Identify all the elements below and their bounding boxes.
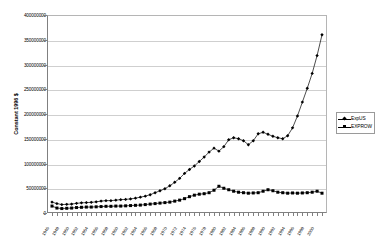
data-point-marker <box>144 194 147 197</box>
legend-item-exprow[interactable]: EXPROW <box>338 123 372 131</box>
data-point-marker <box>153 191 156 194</box>
data-point-marker <box>232 190 235 193</box>
data-point-marker <box>94 200 97 203</box>
x-axis-tick <box>204 213 205 216</box>
data-point-marker <box>188 195 191 198</box>
data-point-marker <box>158 189 161 192</box>
legend-marker-diamond-icon <box>338 115 351 123</box>
x-axis-tick-label: 1970 <box>159 226 168 236</box>
x-axis-tick-label: 1980 <box>208 226 217 236</box>
x-axis-tick-label: 1962 <box>120 226 129 236</box>
x-axis-tick <box>52 213 53 216</box>
data-point-marker <box>222 187 225 190</box>
data-point-marker <box>100 205 103 208</box>
data-point-marker <box>55 202 58 205</box>
data-point-marker <box>217 185 220 188</box>
x-axis-tick <box>297 213 298 216</box>
data-point-marker <box>119 205 122 208</box>
data-point-marker <box>134 204 137 207</box>
x-axis-tick <box>199 213 200 216</box>
data-point-marker <box>213 189 216 192</box>
x-axis-tick <box>145 213 146 216</box>
data-point-marker <box>129 197 132 200</box>
data-point-marker <box>237 137 240 140</box>
x-axis-tick-label: 1976 <box>188 226 197 236</box>
x-axis-tick <box>248 213 249 216</box>
legend-marker-square-icon <box>338 123 351 131</box>
data-point-marker <box>75 202 78 205</box>
data-point-marker <box>208 191 211 194</box>
data-point-marker <box>276 191 279 194</box>
data-point-marker <box>316 190 319 193</box>
x-axis-tick <box>170 213 171 216</box>
x-axis-tick <box>263 213 264 216</box>
x-axis-tick-label: 1948 <box>51 226 60 236</box>
data-point-marker <box>134 196 137 199</box>
data-point-marker <box>60 207 63 210</box>
data-point-marker <box>306 191 309 194</box>
data-point-marker <box>296 192 299 195</box>
data-point-marker <box>286 192 289 195</box>
series-line-expus <box>52 35 322 205</box>
x-axis-tick-label: 1990 <box>257 226 266 236</box>
data-point-marker <box>51 205 54 208</box>
data-point-marker <box>266 133 269 136</box>
data-point-marker <box>320 33 323 36</box>
data-point-marker <box>90 201 93 204</box>
data-point-marker <box>281 191 284 194</box>
data-point-marker <box>267 188 270 191</box>
x-axis-tick <box>278 213 279 216</box>
x-axis-tick-label: 1986 <box>237 226 246 236</box>
data-point-marker <box>237 191 240 194</box>
data-point-marker <box>139 195 142 198</box>
data-point-marker <box>65 203 68 206</box>
x-axis-tick <box>77 213 78 216</box>
legend-item-expus[interactable]: ExpUS <box>338 115 372 123</box>
x-axis-tick <box>86 213 87 216</box>
data-point-marker <box>65 207 68 210</box>
x-axis-tick <box>312 213 313 216</box>
x-axis-tick <box>72 213 73 216</box>
x-axis-tick-label: 1956 <box>90 226 99 236</box>
x-axis-tick <box>288 213 289 216</box>
x-axis-tick-label: 1954 <box>80 226 89 236</box>
data-point-marker <box>306 87 309 90</box>
x-axis-tick <box>239 213 240 216</box>
x-axis-tick-label: 1968 <box>149 226 158 236</box>
data-point-marker <box>80 206 83 209</box>
x-axis-tick <box>150 213 151 216</box>
x-axis-tick <box>322 213 323 216</box>
data-point-marker <box>105 205 108 208</box>
x-axis-tick <box>283 213 284 216</box>
x-axis-tick <box>175 213 176 216</box>
data-point-marker <box>55 207 58 210</box>
x-axis-tick <box>67 213 68 216</box>
x-axis-tick <box>57 213 58 216</box>
data-point-marker <box>149 203 152 206</box>
data-point-marker <box>114 198 117 201</box>
data-point-marker <box>291 191 294 194</box>
x-axis-tick <box>155 213 156 216</box>
data-point-marker <box>315 54 318 57</box>
data-point-marker <box>99 199 102 202</box>
x-axis-tick-label: 1988 <box>247 226 256 236</box>
data-point-marker <box>286 134 289 137</box>
y-axis-title: Constant 1996 $ <box>13 54 19 174</box>
data-point-marker <box>139 204 142 207</box>
x-axis-tick <box>293 213 294 216</box>
data-point-marker <box>168 201 171 204</box>
x-axis-tick-label: 1974 <box>178 226 187 236</box>
data-point-marker <box>271 135 274 138</box>
data-point-marker <box>60 203 63 206</box>
data-point-marker <box>70 202 73 205</box>
x-axis-tick-label: 1964 <box>129 226 138 236</box>
data-point-marker <box>183 197 186 200</box>
x-axis-tick <box>302 213 303 216</box>
data-point-marker <box>119 198 122 201</box>
x-axis-tick <box>219 213 220 216</box>
x-axis-tick-label: 1966 <box>139 226 148 236</box>
chart-legend: ExpUS EXPROW <box>336 112 375 134</box>
data-point-marker <box>109 205 112 208</box>
data-point-marker <box>252 191 255 194</box>
legend-label-exprow: EXPROW <box>351 123 372 131</box>
